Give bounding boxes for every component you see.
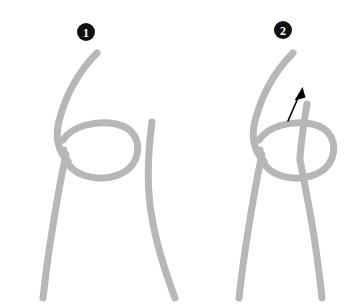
panel-2-working-strand-upper	[253, 53, 293, 161]
step-badge-1: 1	[77, 23, 95, 41]
panel-2: 2	[239, 21, 334, 298]
pull-direction-arrow-head	[295, 87, 306, 101]
panel-1-standing-strand	[148, 122, 175, 298]
knot-diagram-root: 1 2	[0, 0, 353, 305]
step-badge-2: 2	[274, 21, 292, 39]
panel-2-working-strand-lower	[239, 155, 262, 298]
step-badge-2-label: 2	[280, 24, 286, 38]
panel-1-working-strand-lower	[43, 155, 66, 298]
panel-1-loop-arc	[63, 123, 138, 178]
panel-1: 1	[43, 23, 175, 298]
panel-2-tucked-end-upper	[300, 104, 307, 158]
step-badge-1-label: 1	[83, 26, 89, 40]
knot-diagram-canvas: 1 2	[0, 0, 353, 305]
panel-2-loop-arc	[259, 123, 334, 178]
panel-1-working-strand-upper	[57, 53, 97, 161]
